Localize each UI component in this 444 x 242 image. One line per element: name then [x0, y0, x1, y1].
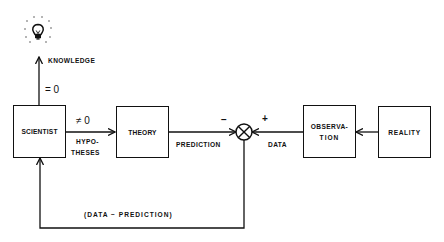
reality-block: REALITY: [378, 106, 431, 158]
scientist-block: SCIENTIST: [13, 105, 66, 158]
observation-label-line1: OBSERVA-: [311, 121, 348, 132]
reality-label: REALITY: [388, 127, 420, 138]
data-label: DATA: [268, 140, 287, 150]
knowledge-label: KNOWLEDGE: [48, 56, 95, 66]
observation-block: OBSERVA- TION: [303, 105, 356, 158]
hypotheses-label-line2: THESES: [71, 148, 100, 158]
comparator-icon: [236, 124, 252, 140]
hypotheses-label-line1: HYPO-: [76, 137, 99, 147]
scientific-method-diagram: SCIENTIST THEORY OBSERVA- TION REALITY K…: [0, 0, 444, 242]
hypotheses-condition: ≠ 0: [76, 116, 90, 126]
prediction-label: PREDICTION: [176, 140, 221, 150]
knowledge-condition: = 0: [45, 85, 59, 95]
theory-block: THEORY: [116, 106, 169, 158]
comparator-plus-sign: +: [262, 114, 268, 124]
lightbulb-icon: [24, 16, 51, 42]
comparator-minus-sign: −: [221, 115, 227, 125]
observation-label-line2: TION: [320, 132, 340, 143]
scientist-label: SCIENTIST: [21, 126, 57, 137]
feedback-label: (DATA − PREDICTION): [84, 210, 173, 220]
theory-label: THEORY: [128, 127, 156, 138]
